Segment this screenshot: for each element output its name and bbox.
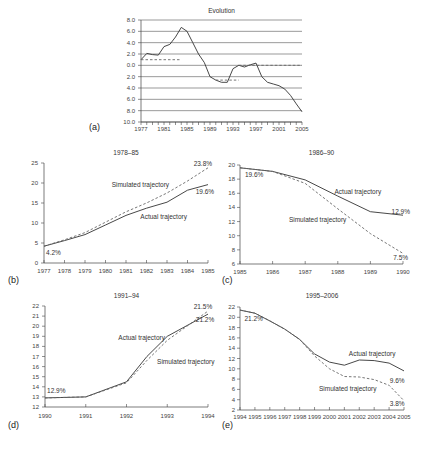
chart-title: 1978–85 (113, 149, 139, 156)
x-tick-label: 1985 (180, 126, 194, 132)
y-tick-label: 8 (232, 247, 236, 253)
y-tick-label: 19 (32, 333, 39, 339)
x-tick-label: 2001 (338, 414, 352, 420)
x-tick-label: 1989 (203, 126, 217, 132)
y-tick-label: 4.0 (127, 40, 136, 46)
x-tick-label: 1999 (308, 414, 322, 420)
chart-title: 1986–90 (309, 149, 335, 156)
annotation: 19.6% (196, 188, 215, 195)
y-tick-label: 15 (31, 200, 38, 206)
x-tick-label: 1982 (140, 268, 154, 274)
x-tick-label: 1984 (181, 268, 195, 274)
x-tick-label: 1983 (160, 268, 174, 274)
panel-e-1995-2006: 1995–2006(e)2468101214161820221994199519… (222, 292, 411, 430)
panel-c-1986-90: 1986–90(c)681012141618201985198619871988… (222, 149, 410, 285)
annotation: 12.9% (47, 387, 66, 394)
y-tick-label: 0 (35, 260, 39, 266)
annotation: 21.2% (244, 315, 263, 322)
annotation: Actual trajectory (335, 188, 382, 196)
x-tick-label: 1981 (157, 126, 171, 132)
y-tick-label: 4 (232, 397, 236, 403)
x-tick-label: 1991 (79, 413, 93, 419)
annotation: 3.8% (390, 400, 405, 407)
annotation: 7.5% (393, 254, 408, 261)
y-tick-label: 8 (232, 376, 236, 382)
x-tick-label: 1978 (58, 268, 72, 274)
actual-trajectory-line (240, 310, 404, 371)
y-tick-label: 20 (228, 314, 235, 320)
x-tick-label: 1994 (233, 414, 247, 420)
y-tick-label: 10.0 (123, 119, 135, 125)
y-tick-label: 6 (232, 261, 236, 267)
y-tick-label: 10 (228, 366, 235, 372)
x-tick-label: 2004 (382, 414, 396, 420)
x-tick-label: 2005 (295, 126, 309, 132)
panel-label: (c) (222, 275, 233, 285)
y-tick-label: 4.0 (127, 85, 136, 91)
annotation: 12.9% (392, 208, 411, 215)
y-tick-label: 6.0 (127, 28, 136, 34)
x-tick-label: 1994 (201, 413, 215, 419)
annotation: Actual trajectory (349, 350, 396, 358)
y-tick-label: 8.0 (127, 108, 136, 114)
annotation: 19.6% (245, 171, 264, 178)
simulated-trajectory-line (44, 168, 208, 246)
annotation: 4.2% (46, 249, 61, 256)
y-tick-label: 20 (228, 162, 235, 168)
y-tick-label: 18 (228, 325, 235, 331)
x-tick-label: 1985 (201, 268, 215, 274)
annotation: 23.8% (194, 160, 213, 167)
y-tick-label: 22 (32, 303, 39, 309)
x-tick-label: 1989 (364, 269, 378, 275)
x-tick-label: 1997 (278, 414, 292, 420)
panel-label: (b) (8, 275, 19, 285)
y-tick-label: 18 (32, 343, 39, 349)
x-tick-label: 1981 (119, 268, 133, 274)
y-tick-label: 5 (35, 240, 39, 246)
actual-trajectory-line (45, 314, 208, 398)
x-tick-label: 1980 (99, 268, 113, 274)
x-tick-label: 1997 (249, 126, 263, 132)
panel-label: (a) (89, 122, 100, 132)
y-tick-label: 12 (228, 356, 235, 362)
y-tick-label: 0.0 (127, 62, 136, 68)
y-tick-label: 20 (32, 323, 39, 329)
figure-canvas: Evolution(a)8.06.04.02.00.02.04.06.08.01… (0, 0, 422, 449)
x-tick-label: 1979 (78, 268, 92, 274)
simulated-trajectory-line (45, 311, 208, 398)
y-tick-label: 6.0 (127, 96, 136, 102)
y-tick-label: 14 (228, 345, 235, 351)
y-tick-label: 2 (232, 407, 236, 413)
y-tick-label: 15 (32, 374, 39, 380)
x-tick-label: 1977 (37, 268, 51, 274)
x-tick-label: 1993 (226, 126, 240, 132)
simulated-trajectory-line (240, 168, 403, 254)
annotation: 21.5% (194, 303, 213, 310)
x-tick-label: 1990 (38, 413, 52, 419)
x-tick-label: 1986 (266, 269, 280, 275)
panel-d-1991-94: 1991–94(d)121314151617181920212219901991… (8, 292, 215, 430)
x-tick-label: 1998 (293, 414, 307, 420)
annotation: Simulated trajectory (289, 216, 347, 224)
y-tick-label: 16 (228, 335, 235, 341)
annotation: 9.6% (390, 377, 405, 384)
x-tick-label: 1990 (396, 269, 410, 275)
y-tick-label: 2.0 (127, 51, 136, 57)
y-tick-label: 10 (228, 233, 235, 239)
annotation: Simulated trajectory (112, 181, 170, 189)
y-tick-label: 20 (31, 180, 38, 186)
panel-label: (e) (222, 420, 233, 430)
x-tick-label: 2000 (323, 414, 337, 420)
x-tick-label: 1993 (161, 413, 175, 419)
panel-a-evolution: Evolution(a)8.06.04.02.00.02.04.06.08.01… (89, 7, 309, 132)
annotation: Simulated trajectory (157, 358, 215, 366)
y-tick-label: 16 (228, 190, 235, 196)
y-tick-label: 10 (31, 220, 38, 226)
y-tick-label: 22 (228, 304, 235, 310)
panel-label: (d) (8, 420, 19, 430)
x-tick-label: 1985 (233, 269, 247, 275)
x-tick-label: 1977 (134, 126, 148, 132)
y-tick-label: 8.0 (127, 17, 136, 23)
annotation: 21.2% (196, 316, 215, 323)
x-tick-label: 2002 (353, 414, 367, 420)
